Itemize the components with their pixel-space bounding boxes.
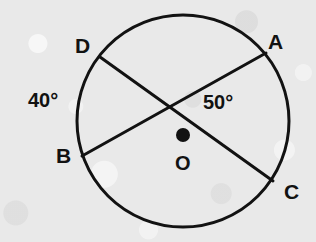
center-point-dot [176, 128, 190, 142]
label-point-a: A [268, 31, 283, 52]
chord-a-to-b [82, 53, 266, 156]
label-center-o: O [175, 153, 191, 173]
label-angle-40-degrees: 40° [28, 90, 58, 110]
circle-chord-diagram: D A B C O 40° 50° [0, 0, 316, 242]
circle-outline [77, 15, 289, 227]
label-angle-50-degrees: 50° [203, 92, 233, 112]
label-point-d: D [75, 35, 90, 56]
label-point-c: C [284, 181, 299, 202]
label-point-b: B [56, 145, 71, 166]
